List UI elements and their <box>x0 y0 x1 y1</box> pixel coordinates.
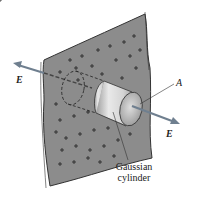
gaussian-cylinder-label: Gaussian cylinder <box>106 161 162 183</box>
field-label-left: E <box>16 74 23 85</box>
gauss-sheet-diagram <box>0 0 200 203</box>
field-label-right: E <box>166 128 173 139</box>
area-label: A <box>176 77 182 88</box>
caption-line-1: Gaussian <box>106 161 162 172</box>
caption-line-2: cylinder <box>106 172 162 183</box>
